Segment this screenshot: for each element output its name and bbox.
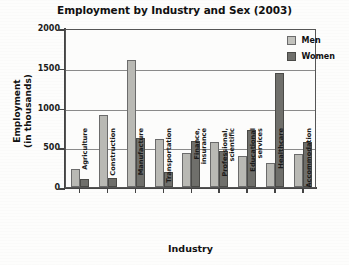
y-axis-tick — [58, 109, 65, 111]
y-axis-tick — [58, 29, 65, 31]
y-axis-tick-label: 2000 — [20, 25, 60, 33]
legend-item-women[interactable]: Women — [287, 52, 336, 61]
x-axis-tick — [135, 188, 137, 193]
y-axis-tick-label: 500 — [20, 144, 60, 152]
bar-men[interactable] — [99, 115, 108, 187]
bar-men[interactable] — [182, 153, 191, 187]
y-axis-tick — [58, 69, 65, 71]
bar-men[interactable] — [155, 139, 164, 187]
x-axis-title: Industry — [65, 243, 316, 254]
x-axis-tick — [163, 188, 165, 193]
legend-item-men[interactable]: Men — [287, 36, 336, 45]
bar-group — [66, 30, 94, 187]
legend: MenWomen — [287, 36, 336, 61]
x-axis-category-label: Professional, scientific — [222, 128, 237, 192]
bar-group — [122, 30, 150, 187]
bar-men[interactable] — [266, 163, 275, 187]
legend-label: Men — [302, 36, 321, 45]
y-axis-tick-label: 1000 — [20, 105, 60, 113]
x-axis-tick — [107, 188, 109, 193]
bar-men[interactable] — [294, 154, 303, 187]
x-axis-category-label: Construction — [110, 128, 117, 192]
legend-swatch-women — [287, 52, 296, 61]
chart-title: Employment by Industry and Sex (2003) — [0, 4, 349, 16]
x-axis-category-label: Manufacture — [138, 128, 145, 192]
y-axis-tick-label: 1500 — [20, 65, 60, 73]
x-axis-tick — [218, 188, 220, 193]
x-axis-category-label: Agriculture — [82, 128, 89, 192]
x-axis-tick — [246, 188, 248, 193]
bar-men[interactable] — [210, 142, 219, 187]
x-axis-tick — [79, 188, 81, 193]
x-axis-category-label: Healthcare — [278, 128, 285, 192]
legend-swatch-men — [287, 36, 296, 45]
y-axis-tick-label: 0 — [20, 184, 60, 192]
legend-label: Women — [302, 52, 336, 61]
bar-men[interactable] — [71, 169, 80, 187]
x-axis-tick — [274, 188, 276, 193]
x-axis-category-label: Accommodation — [306, 128, 313, 192]
y-axis-tick — [58, 188, 65, 190]
bar-group — [94, 30, 122, 187]
x-axis-tick — [302, 188, 304, 193]
chart-page: Employment by Industry and Sex (2003) Em… — [0, 0, 349, 265]
bar-men[interactable] — [238, 156, 247, 187]
bar-men[interactable] — [127, 60, 136, 187]
x-axis-category-label: Finance, insurance — [194, 128, 209, 192]
x-axis-category-label: Transportation — [166, 128, 173, 192]
y-axis-tick — [58, 148, 65, 150]
x-axis-category-label: Educational services — [250, 128, 265, 192]
x-axis-tick — [191, 188, 193, 193]
